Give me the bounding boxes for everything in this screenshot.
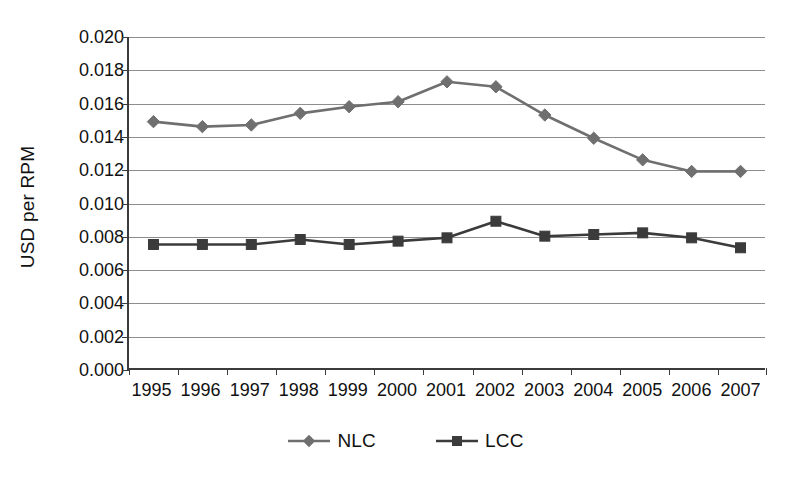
- x-axis-tick-label: 2005: [622, 380, 662, 401]
- y-axis-tick: [122, 270, 129, 271]
- x-axis-tick: [669, 368, 670, 375]
- y-axis-tick: [122, 337, 129, 338]
- data-point-nlc: [147, 115, 159, 127]
- x-axis-tick-label: 2001: [426, 380, 466, 401]
- x-axis-tick: [522, 368, 523, 375]
- x-axis-tick-label: 1996: [181, 380, 221, 401]
- x-axis-tick: [620, 368, 621, 375]
- x-axis-tick: [571, 368, 572, 375]
- data-point-lcc: [442, 233, 452, 243]
- x-axis-tick-label: 2002: [475, 380, 515, 401]
- data-point-nlc: [490, 81, 502, 93]
- y-axis-ticks: [122, 37, 129, 368]
- y-axis-tick-label: 0.004: [50, 293, 124, 314]
- legend-item-lcc[interactable]: LCC: [436, 430, 524, 452]
- data-point-lcc: [638, 228, 648, 238]
- x-axis-tick: [374, 368, 375, 375]
- y-axis-tick: [122, 303, 129, 304]
- y-axis-tick: [122, 204, 129, 205]
- x-axis-tick: [423, 368, 424, 375]
- x-axis-tick: [766, 368, 767, 375]
- data-point-lcc: [540, 231, 550, 241]
- y-axis-tick: [122, 170, 129, 171]
- data-point-lcc: [393, 236, 403, 246]
- data-point-nlc: [588, 132, 600, 144]
- y-axis-tick: [122, 70, 129, 71]
- y-axis-tick: [122, 370, 129, 371]
- legend-item-nlc[interactable]: NLC: [288, 430, 376, 452]
- y-axis-tick-labels: 0.0200.0180.0160.0140.0120.0100.0080.006…: [32, 0, 124, 480]
- x-axis-tick: [129, 368, 130, 375]
- data-point-nlc: [734, 165, 746, 177]
- plot-area: [127, 37, 765, 370]
- x-axis-tick-label: 2000: [377, 380, 417, 401]
- data-point-nlc: [245, 119, 257, 131]
- x-axis-tick: [718, 368, 719, 375]
- line-chart: USD per RPM 0.0200.0180.0160.0140.0120.0…: [0, 0, 812, 480]
- data-point-lcc: [589, 230, 599, 240]
- x-axis-tick-label: 2004: [573, 380, 613, 401]
- y-axis-tick-label: 0.014: [50, 126, 124, 147]
- x-axis-tick-labels: 1995199619971998199920002001200220032004…: [127, 380, 765, 408]
- data-point-lcc: [246, 239, 256, 249]
- data-point-nlc: [196, 120, 208, 132]
- y-axis-tick-label: 0.006: [50, 260, 124, 281]
- data-point-nlc: [392, 96, 404, 108]
- series-lcc: [148, 216, 745, 253]
- y-axis-tick: [122, 137, 129, 138]
- x-axis-tick: [473, 368, 474, 375]
- x-axis-tick-label: 1995: [132, 380, 172, 401]
- data-point-lcc: [736, 243, 746, 253]
- x-axis-tick-label: 2007: [720, 380, 760, 401]
- y-axis-tick-label: 0.020: [50, 27, 124, 48]
- data-point-nlc: [539, 109, 551, 121]
- chart-legend: NLCLCC: [0, 430, 812, 452]
- x-axis-tick-label: 2003: [524, 380, 564, 401]
- x-axis-ticks: [129, 368, 765, 375]
- y-axis-tick-label: 0.008: [50, 226, 124, 247]
- series-nlc: [147, 76, 746, 178]
- data-point-nlc: [294, 107, 306, 119]
- x-axis-tick-label: 1998: [279, 380, 319, 401]
- y-axis-tick-label: 0.012: [50, 160, 124, 181]
- data-series-layer: [129, 37, 765, 369]
- x-axis-tick: [276, 368, 277, 375]
- data-point-lcc: [197, 239, 207, 249]
- y-axis-tick-label: 0.002: [50, 326, 124, 347]
- legend-marker-square-icon: [436, 432, 478, 450]
- x-axis-tick-label: 2006: [671, 380, 711, 401]
- y-axis-tick-label: 0.016: [50, 93, 124, 114]
- legend-label: LCC: [485, 430, 524, 452]
- x-axis-tick: [178, 368, 179, 375]
- legend-label: NLC: [337, 430, 376, 452]
- y-axis-tick: [122, 237, 129, 238]
- data-point-lcc: [687, 233, 697, 243]
- data-point-lcc: [148, 239, 158, 249]
- legend-marker-diamond-icon: [288, 432, 330, 450]
- data-point-nlc: [636, 154, 648, 166]
- data-point-lcc: [344, 239, 354, 249]
- series-line-nlc: [153, 82, 740, 172]
- x-axis-tick: [227, 368, 228, 375]
- y-axis-tick: [122, 37, 129, 38]
- y-axis-tick-label: 0.018: [50, 60, 124, 81]
- data-point-lcc: [295, 235, 305, 245]
- data-point-lcc: [491, 216, 501, 226]
- data-point-nlc: [441, 76, 453, 88]
- y-axis-tick-label: 0.000: [50, 360, 124, 381]
- x-axis-tick-label: 1999: [328, 380, 368, 401]
- x-axis-tick: [325, 368, 326, 375]
- data-point-nlc: [343, 101, 355, 113]
- data-point-nlc: [685, 165, 697, 177]
- x-axis-tick-label: 1997: [230, 380, 270, 401]
- y-axis-tick: [122, 104, 129, 105]
- y-axis-tick-label: 0.010: [50, 193, 124, 214]
